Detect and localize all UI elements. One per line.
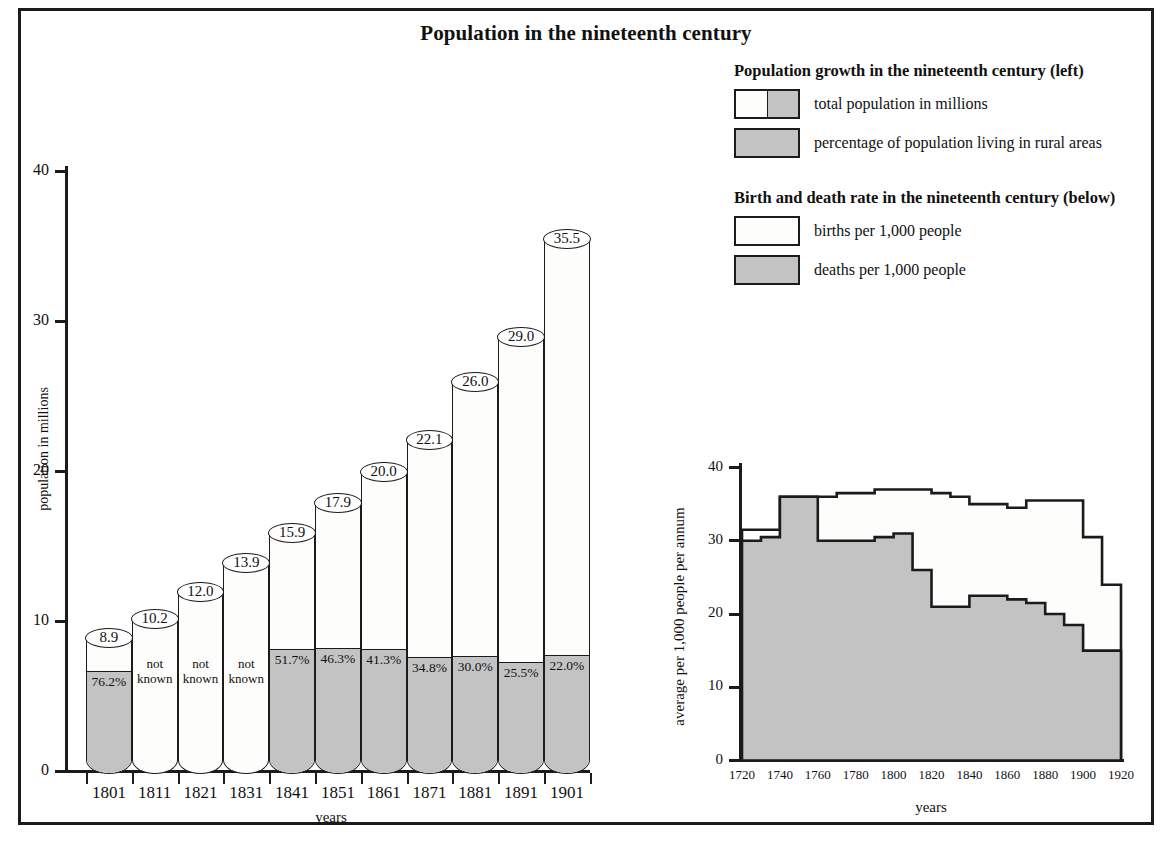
right-x-tick-label-1800: 1800 [873, 767, 915, 783]
legend-item-rural-percentage: percentage of population living in rural… [734, 128, 1134, 158]
right-y-tick-label: 20 [689, 604, 723, 621]
right-x-tick-label-1920: 1920 [1100, 767, 1142, 783]
right-y-tick [729, 759, 741, 762]
legend-group-birth-death: Birth and death rate in the nineteenth c… [734, 188, 1134, 285]
right-y-tick-label: 0 [689, 751, 723, 768]
deaths-area [742, 497, 1121, 761]
births-area [742, 489, 1121, 760]
legend-label-rural-percentage: percentage of population living in rural… [814, 134, 1102, 152]
right-chart-x-axis-label: years [811, 799, 1051, 816]
right-x-tick-label-1840: 1840 [948, 767, 990, 783]
right-x-tick-label-1740: 1740 [759, 767, 801, 783]
legend-item-deaths: deaths per 1,000 people [734, 255, 1134, 285]
swatch-white-births [734, 216, 800, 246]
swatch-split-white-gray [734, 89, 800, 119]
swatch-half-gray [767, 91, 798, 117]
legend-label-deaths: deaths per 1,000 people [814, 261, 966, 279]
legend-item-births: births per 1,000 people [734, 216, 1134, 246]
right-x-tick-label-1820: 1820 [911, 767, 953, 783]
legend-item-total-population: total population in millions [734, 89, 1134, 119]
right-y-tick [729, 613, 741, 616]
right-y-tick [729, 539, 741, 542]
swatch-gray-deaths [734, 255, 800, 285]
right-y-tick [729, 466, 741, 469]
right-x-tick-label-1760: 1760 [797, 767, 839, 783]
legend-label-births: births per 1,000 people [814, 222, 962, 240]
right-y-tick-label: 30 [689, 531, 723, 548]
right-y-tick-label: 10 [689, 677, 723, 694]
right-chart-y-axis-label: average per 1,000 people per annum [671, 472, 688, 762]
legend-label-total-population: total population in millions [814, 95, 988, 113]
right-x-tick-label-1720: 1720 [721, 767, 763, 783]
legend: Population growth in the nineteenth cent… [734, 61, 1134, 294]
right-x-tick-label-1900: 1900 [1062, 767, 1104, 783]
right-x-tick-label-1780: 1780 [835, 767, 877, 783]
swatch-gray-rural [734, 128, 800, 158]
swatch-half-white [736, 91, 767, 117]
legend-heading-birth-death: Birth and death rate in the nineteenth c… [734, 188, 1134, 207]
right-y-tick [729, 686, 741, 689]
legend-heading-population: Population growth in the nineteenth cent… [734, 61, 1134, 80]
right-chart-x-axis [739, 759, 1124, 762]
figure-frame: Population in the nineteenth century 010… [18, 8, 1154, 825]
right-y-tick-label: 40 [689, 458, 723, 475]
right-x-tick-label-1860: 1860 [986, 767, 1028, 783]
legend-group-population: Population growth in the nineteenth cent… [734, 61, 1134, 158]
right-x-tick-label-1880: 1880 [1024, 767, 1066, 783]
